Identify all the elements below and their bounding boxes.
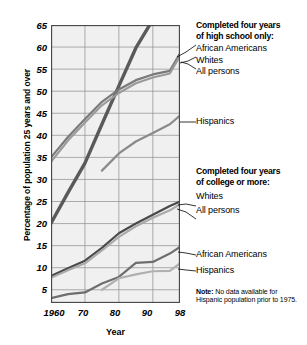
col-heading-line2: of college or more: (196, 177, 307, 188)
y-tick-55: 55 (23, 65, 47, 75)
y-tick-5: 5 (23, 285, 47, 295)
plot-background (51, 25, 180, 303)
col-legend-african-americans: African Americans (196, 249, 307, 261)
x-tick-1960: 1960 (37, 308, 71, 318)
hs-legend-african-americans: African Americans (196, 43, 307, 55)
legend-college-minority: African Americans Hispanics (196, 249, 307, 276)
x-tick-98: 98 (167, 308, 193, 318)
hs-heading-line1: Completed four years (196, 20, 307, 31)
hs-legend-whites: Whites (196, 55, 307, 67)
plot-area (51, 25, 180, 303)
hs-heading-line2: of high school only: (196, 31, 307, 42)
chart-note: Note: No data available for Hispanic pop… (196, 288, 304, 305)
note-label: Note: (196, 288, 213, 295)
x-axis-title: Year (51, 327, 180, 337)
hs-legend-all-persons: All persons (196, 66, 307, 78)
x-tick-80: 80 (102, 308, 128, 318)
chart-root: Percentage of population 25 years and ov… (0, 0, 307, 345)
y-tick-60: 60 (23, 43, 47, 53)
hs-legend-hispanics: Hispanics (196, 116, 307, 128)
y-tick-35: 35 (23, 153, 47, 163)
plot-svg (51, 25, 180, 303)
legend-college: Completed four years of college or more:… (196, 166, 307, 216)
x-tick-70: 70 (70, 308, 96, 318)
col-heading-line1: Completed four years (196, 166, 307, 177)
y-tick-40: 40 (23, 131, 47, 141)
col-legend-whites: Whites (196, 191, 307, 203)
y-tick-30: 30 (23, 175, 47, 185)
y-tick-45: 45 (23, 109, 47, 119)
col-legend-all-persons: All persons (196, 205, 307, 217)
y-tick-50: 50 (23, 87, 47, 97)
y-tick-10: 10 (23, 263, 47, 273)
col-legend-hispanics: Hispanics (196, 265, 307, 277)
legend-high-school: Completed four years of high school only… (196, 20, 307, 78)
y-tick-25: 25 (23, 197, 47, 207)
y-tick-20: 20 (23, 219, 47, 229)
y-tick-65: 65 (23, 21, 47, 31)
x-tick-90: 90 (134, 308, 160, 318)
legend-hs-hispanics: Hispanics (196, 116, 307, 128)
y-tick-15: 15 (23, 241, 47, 251)
